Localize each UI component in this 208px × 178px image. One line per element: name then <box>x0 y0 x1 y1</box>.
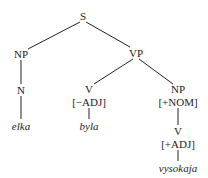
syntax-tree-diagram: S NP N elka VP V [−ADJ] byla NP [+NOM] V… <box>0 0 208 178</box>
node-v-copula: V <box>85 84 93 95</box>
edge-vp-v <box>94 59 133 84</box>
edge-s-np <box>28 22 80 49</box>
node-v-adjectival: V <box>174 126 182 137</box>
node-np-subject: NP <box>14 49 28 60</box>
edge-vp-np <box>139 59 173 84</box>
word-byla: byla <box>80 121 99 132</box>
node-n: N <box>17 85 25 96</box>
node-s: S <box>80 11 86 22</box>
word-elka: elka <box>12 121 30 132</box>
node-np-predicate: NP <box>171 84 185 95</box>
edge-s-vp <box>86 22 130 47</box>
feature-plus-nom: [+NOM] <box>158 97 197 108</box>
node-vp: VP <box>129 48 143 59</box>
feature-minus-adj: [−ADJ] <box>72 97 106 108</box>
word-vysokaja: vysokaja <box>159 163 197 174</box>
feature-plus-adj: [+ADJ] <box>161 139 195 150</box>
